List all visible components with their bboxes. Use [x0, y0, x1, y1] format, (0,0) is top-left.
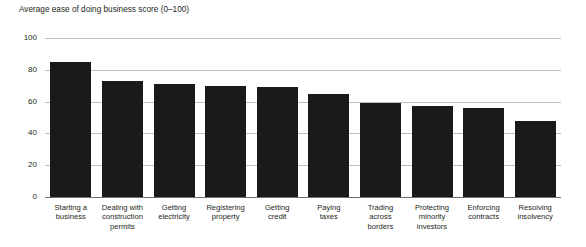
- chart-title: Average ease of doing business score (0–…: [19, 5, 189, 14]
- bar: [257, 87, 298, 197]
- y-axis-tick-label: 100: [0, 34, 37, 42]
- bar: [515, 121, 556, 197]
- y-axis-tick-label: 80: [0, 66, 37, 74]
- x-axis-label-line: permits: [92, 222, 154, 231]
- x-axis-category-label: Resolvinginsolvency: [504, 203, 566, 222]
- x-axis-label-line: investors: [401, 222, 463, 231]
- y-axis-tick-label: 20: [0, 161, 37, 169]
- bar: [50, 62, 91, 197]
- y-axis-tick-label: 0: [0, 193, 37, 201]
- bar: [463, 108, 504, 197]
- y-axis-tick-label: 60: [0, 98, 37, 106]
- x-axis-label-line: Resolving: [504, 203, 566, 212]
- y-axis-tick-label: 40: [0, 129, 37, 137]
- bar: [205, 86, 246, 197]
- axis-baseline: [45, 197, 561, 198]
- x-axis-label-line: insolvency: [504, 212, 566, 221]
- bar: [154, 84, 195, 197]
- bar: [360, 103, 401, 197]
- bar-chart-figure: Average ease of doing business score (0–…: [0, 0, 586, 247]
- bar-series: [45, 38, 561, 197]
- bar: [308, 94, 349, 197]
- bar: [412, 106, 453, 197]
- bar: [102, 81, 143, 197]
